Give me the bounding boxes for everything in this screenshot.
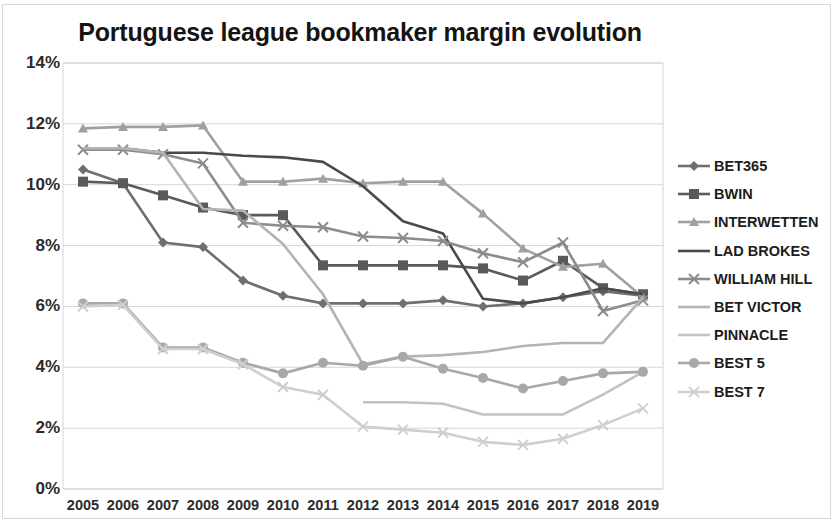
chart-legend: BET365BWININTERWETTENLAD BROKESWILLIAM H… bbox=[676, 152, 834, 406]
legend-item-label: LAD BROKES bbox=[714, 243, 810, 259]
data-point-marker bbox=[558, 376, 568, 386]
legend-marker-circle-icon bbox=[676, 354, 712, 372]
x-tick-2019: 2019 bbox=[627, 497, 659, 513]
legend-item-label: BET VICTOR bbox=[714, 299, 802, 315]
series-best-7 bbox=[78, 300, 648, 450]
legend-item-label: PINNACLE bbox=[714, 327, 788, 343]
data-point-marker bbox=[478, 373, 488, 383]
legend-item-interwetten[interactable]: INTERWETTEN bbox=[676, 208, 834, 236]
data-point-marker bbox=[478, 301, 488, 311]
series-line bbox=[83, 150, 643, 311]
series-line bbox=[363, 372, 643, 415]
data-point-marker bbox=[78, 177, 88, 187]
data-point-marker bbox=[438, 260, 448, 270]
data-point-marker bbox=[278, 368, 288, 378]
x-tick-2006: 2006 bbox=[107, 497, 139, 513]
legend-item-bet365[interactable]: BET365 bbox=[676, 152, 834, 180]
x-tick-2008: 2008 bbox=[187, 497, 219, 513]
series-pinnacle bbox=[363, 372, 643, 415]
data-point-marker bbox=[518, 276, 528, 286]
legend-item-lad-brokes[interactable]: LAD BROKES bbox=[676, 237, 834, 265]
legend-item-william-hill[interactable]: WILLIAM HILL bbox=[676, 265, 834, 293]
legend-item-label: BEST 7 bbox=[714, 384, 765, 400]
data-point-marker bbox=[438, 364, 448, 374]
series-line bbox=[83, 148, 643, 303]
legend-marker-triangle-icon bbox=[676, 213, 712, 231]
x-tick-2005: 2005 bbox=[67, 497, 99, 513]
series-interwetten bbox=[78, 120, 648, 301]
series-bwin bbox=[78, 177, 648, 300]
legend-item-pinnacle[interactable]: PINNACLE bbox=[676, 321, 834, 349]
data-point-marker bbox=[398, 260, 408, 270]
legend-item-bwin[interactable]: BWIN bbox=[676, 180, 834, 208]
data-point-marker bbox=[278, 210, 288, 220]
x-axis-tick-labels: 2005200620072008200920102011201220132014… bbox=[0, 497, 700, 521]
data-point-marker bbox=[438, 295, 448, 305]
series-best-5 bbox=[78, 298, 648, 393]
legend-marker-diamond-icon bbox=[676, 157, 712, 175]
legend-item-bet-victor[interactable]: BET VICTOR bbox=[676, 293, 834, 321]
data-point-marker bbox=[638, 403, 648, 413]
x-tick-2011: 2011 bbox=[307, 497, 338, 513]
data-point-marker bbox=[278, 291, 288, 301]
data-point-marker bbox=[118, 178, 128, 188]
data-point-marker bbox=[158, 190, 168, 200]
x-tick-2010: 2010 bbox=[267, 497, 299, 513]
data-point-marker bbox=[78, 165, 88, 175]
x-tick-2007: 2007 bbox=[147, 497, 179, 513]
legend-marker-none-icon bbox=[676, 242, 712, 260]
data-point-marker bbox=[398, 352, 408, 362]
x-tick-2016: 2016 bbox=[507, 497, 539, 513]
legend-item-label: BET365 bbox=[714, 158, 767, 174]
data-point-marker bbox=[358, 260, 368, 270]
data-point-marker bbox=[318, 358, 328, 368]
legend-item-best-7[interactable]: BEST 7 bbox=[676, 378, 834, 406]
legend-marker-none-icon bbox=[676, 298, 712, 316]
data-point-marker bbox=[478, 263, 488, 273]
legend-marker-square-icon bbox=[676, 185, 712, 203]
data-point-marker bbox=[318, 260, 328, 270]
legend-marker-cross-icon bbox=[676, 270, 712, 288]
x-tick-2009: 2009 bbox=[227, 497, 259, 513]
series-william-hill bbox=[78, 145, 648, 316]
legend-item-label: BEST 5 bbox=[714, 355, 765, 371]
data-point-marker bbox=[638, 367, 648, 377]
legend-marker-cross-icon bbox=[676, 383, 712, 401]
legend-item-best-5[interactable]: BEST 5 bbox=[676, 349, 834, 377]
x-tick-2014: 2014 bbox=[427, 497, 459, 513]
x-tick-2015: 2015 bbox=[467, 497, 499, 513]
chart-screenshot: Portuguese league bookmaker margin evolu… bbox=[0, 0, 835, 523]
x-tick-2017: 2017 bbox=[547, 497, 579, 513]
data-point-marker bbox=[518, 384, 528, 394]
series-lad-brokes bbox=[83, 148, 643, 303]
x-tick-2012: 2012 bbox=[347, 497, 379, 513]
x-tick-2013: 2013 bbox=[387, 497, 419, 513]
legend-item-label: INTERWETTEN bbox=[714, 214, 818, 230]
data-point-marker bbox=[358, 361, 368, 371]
x-tick-2018: 2018 bbox=[587, 497, 619, 513]
legend-item-label: BWIN bbox=[714, 186, 753, 202]
series-line bbox=[83, 305, 643, 445]
legend-marker-none-icon bbox=[676, 326, 712, 344]
data-series-layer bbox=[78, 120, 648, 450]
legend-item-label: WILLIAM HILL bbox=[714, 271, 812, 287]
data-point-marker bbox=[598, 368, 608, 378]
